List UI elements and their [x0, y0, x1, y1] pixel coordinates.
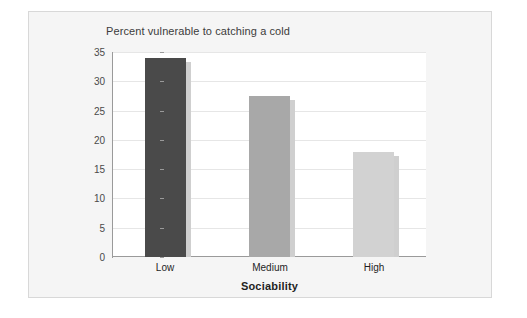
- y-axis-tick-label: 25: [94, 106, 105, 117]
- y-axis-tick-mark: [160, 81, 164, 82]
- x-axis-label-high: High: [364, 262, 385, 273]
- chart-panel: Percent vulnerable to catching a cold 05…: [28, 11, 492, 298]
- y-axis-tick-label: 15: [94, 164, 105, 175]
- y-axis-tick-label: 35: [94, 47, 105, 58]
- bar-low: [145, 58, 186, 257]
- y-axis-tick-label: 0: [99, 252, 105, 263]
- y-axis-tick-mark: [160, 198, 164, 199]
- y-axis-line: [112, 52, 113, 258]
- y-axis-tick-mark: [160, 140, 164, 141]
- y-axis-tick-label: 20: [94, 135, 105, 146]
- bar-high: [353, 152, 394, 257]
- bar-medium: [249, 96, 290, 257]
- bar-shadow: [186, 62, 191, 257]
- y-axis-tick-mark: [160, 257, 164, 258]
- plot-area: [113, 52, 426, 257]
- y-axis-tick-mark: [160, 111, 164, 112]
- y-axis-tick-mark: [160, 228, 164, 229]
- x-axis-label-low: Low: [156, 262, 174, 273]
- y-axis-tick-mark: [160, 52, 164, 53]
- bar-shadow: [290, 100, 295, 257]
- x-axis-label-medium: Medium: [252, 262, 288, 273]
- y-axis-tick-label: 10: [94, 193, 105, 204]
- x-axis-category-labels: LowMediumHigh: [113, 262, 426, 276]
- chart-title: Percent vulnerable to catching a cold: [106, 25, 290, 37]
- y-axis-tick-label: 30: [94, 76, 105, 87]
- y-axis-tick-labels: 05101520253035: [77, 52, 105, 257]
- y-axis-tick-label: 5: [99, 223, 105, 234]
- y-axis-tick-mark: [160, 169, 164, 170]
- x-axis-title: Sociability: [113, 280, 426, 292]
- bar-shadow: [394, 156, 399, 257]
